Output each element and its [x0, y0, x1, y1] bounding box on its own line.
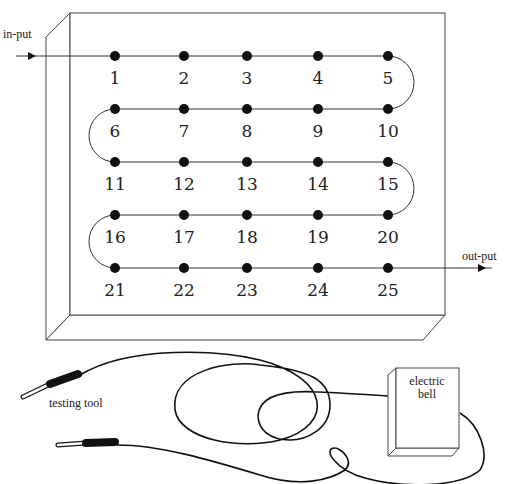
contact-point-13[interactable]: [242, 157, 252, 167]
point-label: 16: [104, 227, 126, 247]
point-label: 15: [377, 174, 399, 194]
contact-point-1[interactable]: [110, 51, 120, 61]
point-label: 11: [104, 174, 126, 194]
point-label: 1: [110, 68, 121, 88]
contact-point-22[interactable]: [179, 263, 189, 273]
contact-point-16[interactable]: [110, 210, 120, 220]
point-label: 25: [377, 280, 399, 300]
point-label: 17: [173, 227, 195, 247]
point-label: 7: [179, 121, 190, 141]
contact-point-2[interactable]: [179, 51, 189, 61]
contact-point-6[interactable]: [110, 104, 120, 114]
contact-point-10[interactable]: [383, 104, 393, 114]
point-label: 20: [377, 227, 399, 247]
board-side-face: [46, 13, 70, 340]
testing-probe-1[interactable]: [23, 374, 78, 397]
point-label: 12: [173, 174, 195, 194]
contact-point-25[interactable]: [383, 263, 393, 273]
point-label: 8: [242, 121, 253, 141]
point-label: 5: [383, 68, 394, 88]
point-label: 19: [307, 227, 329, 247]
contact-point-23[interactable]: [242, 263, 252, 273]
output-arrow-icon: [478, 264, 486, 272]
point-label: 2: [179, 68, 190, 88]
electric-bell: electric bell: [388, 368, 459, 456]
bell-label-line1: electric: [409, 374, 444, 388]
point-label: 21: [104, 280, 126, 300]
contact-point-12[interactable]: [179, 157, 189, 167]
contact-point-8[interactable]: [242, 104, 252, 114]
contact-point-19[interactable]: [313, 210, 323, 220]
contact-point-14[interactable]: [313, 157, 323, 167]
contact-point-15[interactable]: [383, 157, 393, 167]
point-label: 9: [313, 121, 324, 141]
contact-point-24[interactable]: [313, 263, 323, 273]
contact-point-7[interactable]: [179, 104, 189, 114]
point-label: 10: [377, 121, 399, 141]
contact-point-4[interactable]: [313, 51, 323, 61]
point-label: 24: [307, 280, 329, 300]
input-label: in-put: [3, 27, 32, 41]
point-label: 14: [307, 174, 329, 194]
output-label: out-put: [462, 249, 497, 263]
contact-point-11[interactable]: [110, 157, 120, 167]
circuit-diagram: 1 2 3 4 5 6 7 8 9 10 11 12 13 14 15 16 1…: [0, 0, 506, 484]
contact-point-21[interactable]: [110, 263, 120, 273]
point-label: 3: [242, 68, 253, 88]
point-label: 4: [313, 68, 324, 88]
testing-probe-2[interactable]: [58, 442, 115, 445]
contact-point-5[interactable]: [383, 51, 393, 61]
point-label: 13: [236, 174, 258, 194]
contact-point-3[interactable]: [242, 51, 252, 61]
contact-point-9[interactable]: [313, 104, 323, 114]
point-label: 22: [173, 280, 195, 300]
contact-point-18[interactable]: [242, 210, 252, 220]
testing-tool-label: testing tool: [49, 396, 103, 410]
point-label: 18: [236, 227, 258, 247]
contact-point-17[interactable]: [179, 210, 189, 220]
point-label: 6: [110, 121, 121, 141]
input-arrow-icon: [28, 52, 36, 60]
point-label: 23: [236, 280, 258, 300]
bell-label-line2: bell: [418, 387, 437, 401]
contact-point-20[interactable]: [383, 210, 393, 220]
board-bottom-face: [46, 315, 445, 340]
